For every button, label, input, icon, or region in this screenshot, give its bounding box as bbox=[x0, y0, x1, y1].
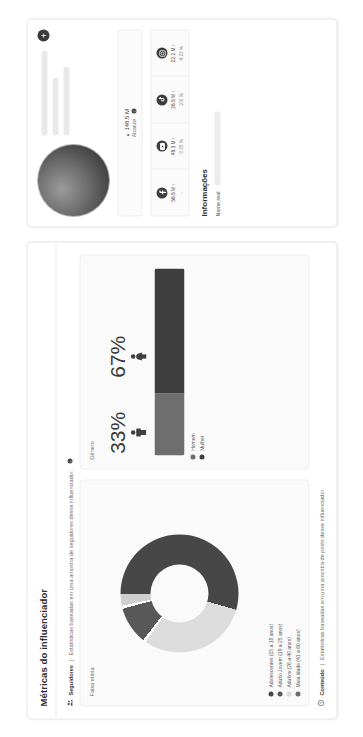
rotated-page-canvas: Métricas do influenciador Seguidores | E… bbox=[0, 0, 363, 737]
gender-female-percent: 67% bbox=[106, 335, 127, 377]
social-percent: 100 % bbox=[178, 93, 183, 106]
legend-item[interactable]: Adolescentes (15 a 18 anos) bbox=[267, 489, 273, 696]
legend-item[interactable]: Adultos (26 a 40 anos) bbox=[285, 489, 291, 696]
content-section-separator: | bbox=[318, 663, 324, 664]
reach-label: Alcance bbox=[130, 118, 136, 136]
male-icon bbox=[130, 425, 146, 439]
arrow-up-icon: ↑ bbox=[170, 44, 175, 46]
social-stats-row: 56.5 M ↑ - 48.3 M ↑ 0.05 % bbox=[150, 29, 189, 216]
legend-item[interactable]: Meia idade (41 a 60 anos) bbox=[294, 489, 300, 696]
gender-stacked-bar[interactable] bbox=[154, 268, 184, 455]
social-value: 48.3 M bbox=[170, 140, 175, 155]
info-icon[interactable]: i bbox=[67, 458, 72, 463]
arrow-up-icon: ↑ bbox=[170, 90, 175, 92]
social-percent: 0.05 % bbox=[178, 139, 183, 153]
followers-section-label: Seguidores bbox=[67, 665, 73, 695]
profile-name-skeleton bbox=[41, 50, 47, 135]
reach-value: 148.5 M bbox=[123, 108, 129, 130]
arrow-up-icon: ▲ bbox=[124, 132, 129, 137]
social-value: 26.5 M bbox=[170, 94, 175, 109]
charts-row: Faixa etária Adolescentes (15 a 18 anos)… bbox=[79, 254, 309, 706]
reach-box: ▲ 148.5 M Alcance i bbox=[117, 29, 142, 216]
social-value-row: 22.2 M ↑ bbox=[170, 44, 175, 62]
gender-male-percent: 33% bbox=[106, 411, 127, 453]
influencer-profile-panel: + ▲ 148.5 M Alcance i bbox=[26, 18, 337, 227]
influencer-metrics-panel: Métricas do influenciador Seguidores | E… bbox=[26, 241, 337, 719]
followers-section-separator: | bbox=[67, 659, 73, 660]
gender-bar-segment-homem bbox=[154, 394, 184, 456]
gender-chart-legend: Homem Mulher bbox=[184, 264, 204, 459]
tiktok-icon bbox=[156, 94, 167, 105]
social-percent: - bbox=[178, 191, 183, 193]
age-donut-chart[interactable] bbox=[120, 534, 238, 652]
legend-color-dot bbox=[190, 454, 195, 459]
legend-label: Mulher bbox=[198, 435, 204, 450]
gender-bar-segment-mulher bbox=[154, 268, 184, 393]
legend-label: Adolescentes (15 a 18 anos) bbox=[267, 623, 273, 687]
info-icon[interactable]: i bbox=[131, 108, 136, 113]
legend-item[interactable]: Mulher bbox=[198, 264, 204, 459]
social-value-row: 48.3 M ↑ bbox=[170, 137, 175, 155]
profile-name-placeholder bbox=[37, 29, 109, 135]
legend-color-dot bbox=[286, 691, 291, 696]
arrow-up-icon: ↑ bbox=[170, 137, 175, 139]
plus-icon[interactable]: + bbox=[37, 29, 49, 41]
profile-handle-skeleton bbox=[52, 77, 58, 135]
legend-label: Homem bbox=[189, 433, 195, 451]
social-value-row: 26.5 M ↑ bbox=[170, 90, 175, 108]
social-value-row: 56.5 M ↑ bbox=[170, 183, 175, 201]
gender-chart-title: Gênero bbox=[88, 264, 96, 459]
title-divider bbox=[55, 242, 56, 718]
social-value: 22.2 M bbox=[170, 47, 175, 62]
real-name-label: Nome real: bbox=[214, 190, 220, 216]
legend-item[interactable]: Homem bbox=[189, 264, 195, 459]
facebook-icon bbox=[156, 187, 167, 198]
social-stat-tiktok[interactable]: 26.5 M ↑ 100 % bbox=[151, 76, 188, 123]
information-title: Informações bbox=[199, 29, 214, 216]
age-donut-wrapper bbox=[96, 489, 262, 696]
legend-item[interactable]: Adulto Jovem (19 a 25 anos) bbox=[276, 489, 282, 696]
content-section-label: Conteúdo bbox=[318, 669, 324, 695]
age-chart-card: Faixa etária Adolescentes (15 a 18 anos)… bbox=[79, 479, 309, 706]
gender-male-group: 33% bbox=[106, 411, 146, 453]
social-stat-youtube[interactable]: 48.3 M ↑ 0.05 % bbox=[151, 122, 188, 169]
social-stat-facebook[interactable]: 56.5 M ↑ - bbox=[151, 169, 188, 216]
page-title: Métricas do influenciador bbox=[37, 254, 55, 706]
legend-label: Meia idade (41 a 60 anos) bbox=[294, 629, 300, 687]
arrow-up-icon: ↑ bbox=[170, 183, 175, 185]
instagram-icon bbox=[156, 47, 167, 58]
legend-color-dot bbox=[199, 454, 204, 459]
followers-section-description: Estatísticas baseadas em uma amostra de … bbox=[67, 469, 73, 655]
age-chart-title: Faixa etária bbox=[88, 489, 96, 696]
reach-value-row: ▲ 148.5 M bbox=[123, 108, 129, 136]
age-chart-legend: Adolescentes (15 a 18 anos) Adulto Jovem… bbox=[262, 489, 300, 696]
legend-label: Adultos (26 a 40 anos) bbox=[285, 637, 291, 687]
social-value: 56.5 M bbox=[170, 187, 175, 202]
profile-header bbox=[37, 29, 109, 216]
followers-section-header: Seguidores | Estatísticas baseadas em um… bbox=[64, 254, 79, 706]
information-block: Informações Nome real: bbox=[197, 29, 220, 216]
female-icon bbox=[130, 349, 146, 363]
content-section-description: Estatísticas baseadas em uma amostra de … bbox=[318, 488, 324, 660]
legend-color-dot bbox=[277, 691, 282, 696]
content-section-header: Conteúdo | Estatísticas baseadas em uma … bbox=[309, 254, 324, 706]
real-name-row: Nome real: bbox=[214, 29, 220, 216]
real-name-value-skeleton bbox=[214, 111, 220, 185]
reach-label-row: Alcance i bbox=[130, 108, 136, 136]
gender-figures: 33% 67% bbox=[96, 264, 148, 459]
youtube-icon bbox=[156, 140, 167, 151]
avatar[interactable] bbox=[37, 144, 109, 216]
followers-icon bbox=[66, 699, 73, 706]
social-percent: 4.23 % bbox=[178, 46, 183, 60]
social-stat-instagram[interactable]: 22.2 M ↑ 4.23 % bbox=[151, 30, 188, 76]
gender-female-group: 67% bbox=[106, 335, 146, 377]
gender-chart-card: Gênero 33% 67% bbox=[79, 254, 309, 469]
legend-color-dot bbox=[268, 691, 273, 696]
legend-color-dot bbox=[295, 691, 300, 696]
content-icon bbox=[317, 699, 324, 706]
profile-tag-skeleton bbox=[63, 66, 69, 135]
legend-label: Adulto Jovem (19 a 25 anos) bbox=[276, 623, 282, 687]
